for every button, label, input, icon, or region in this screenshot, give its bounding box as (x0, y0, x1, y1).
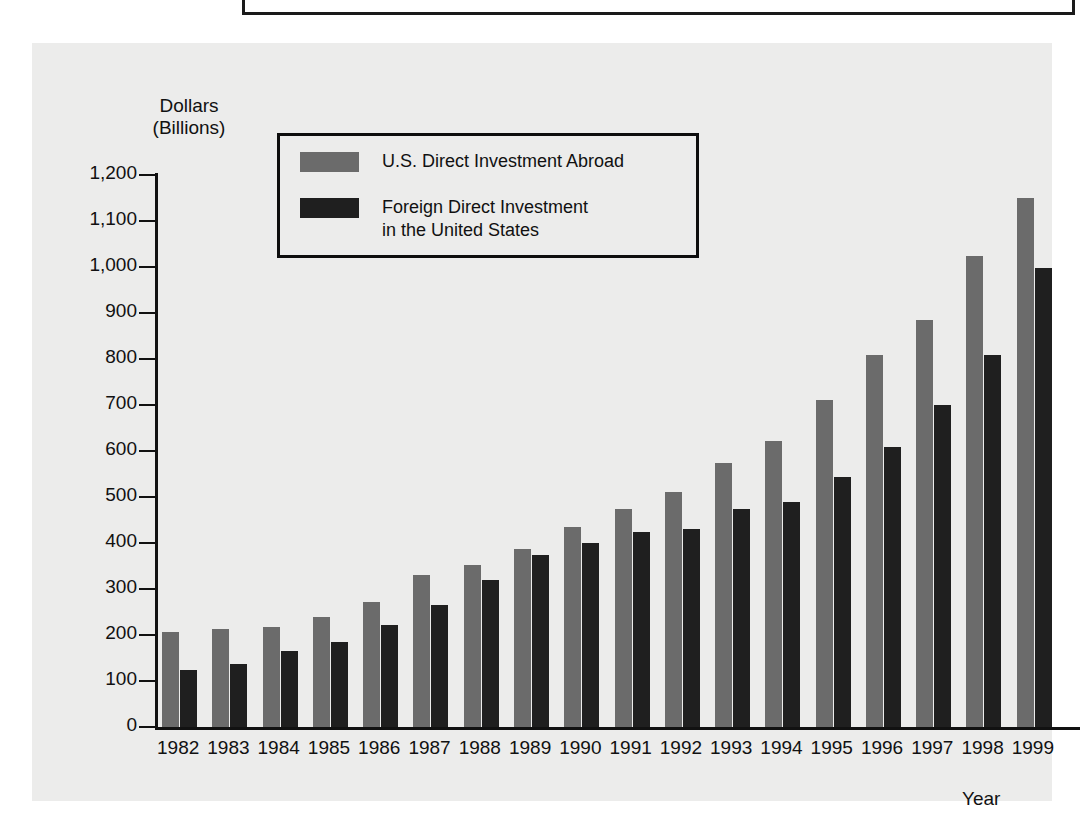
bar-1998-series0 (966, 256, 983, 728)
y-axis-tick-label: 100 (37, 668, 137, 690)
y-axis-tick-label: 900 (37, 300, 137, 322)
y-axis-tick-label: 1,100 (37, 208, 137, 230)
x-axis-label-1996: 1996 (861, 737, 903, 759)
y-axis-tick-label: 0 (37, 714, 137, 736)
bar-1991-series1 (633, 532, 650, 727)
bar-1989-series0 (514, 549, 531, 727)
bar-1983-series0 (212, 629, 229, 727)
bar-1984-series0 (263, 627, 280, 727)
x-axis-label-1989: 1989 (509, 737, 551, 759)
x-axis-label-1994: 1994 (760, 737, 802, 759)
y-axis-tick-label: 1,000 (37, 254, 137, 276)
bar-1997-series0 (916, 320, 933, 727)
y-axis-tick (139, 174, 155, 176)
y-axis-tick-label: 600 (37, 438, 137, 460)
bar-1999-series1 (1035, 268, 1052, 727)
bar-1987-series1 (431, 605, 448, 727)
x-axis-label-1990: 1990 (559, 737, 601, 759)
plot-area: 1,2001,1001,0009008007006005004003002001… (155, 175, 1060, 727)
y-axis-tick (139, 404, 155, 406)
y-axis-title: Dollars (Billions) (124, 95, 254, 140)
bar-1984-series1 (281, 651, 298, 727)
x-axis-title: Year (962, 788, 1000, 810)
bar-1985-series1 (331, 642, 348, 727)
bar-1994-series0 (765, 441, 782, 727)
y-axis-tick (139, 588, 155, 590)
bar-1992-series0 (665, 492, 682, 727)
bar-1985-series0 (313, 617, 330, 727)
y-axis-title-line1: Dollars (124, 95, 254, 117)
y-axis-tick (139, 634, 155, 636)
bar-1998-series1 (984, 355, 1001, 727)
y-axis-tick (139, 450, 155, 452)
x-axis-label-1986: 1986 (358, 737, 400, 759)
bar-1994-series1 (783, 502, 800, 727)
bar-1983-series1 (230, 664, 247, 727)
x-axis-label-1998: 1998 (961, 737, 1003, 759)
y-axis-tick-label: 300 (37, 576, 137, 598)
y-axis-tick (139, 496, 155, 498)
y-axis-tick (139, 312, 155, 314)
y-axis-tick-label: 400 (37, 530, 137, 552)
bar-1997-series1 (934, 405, 951, 727)
bar-1987-series0 (413, 575, 430, 727)
y-axis-tick (139, 726, 155, 728)
legend-item-us-direct-investment-abroad: U.S. Direct Investment Abroad (300, 150, 624, 173)
bar-1996-series1 (884, 447, 901, 727)
bar-1982-series1 (180, 670, 197, 728)
x-axis-label-1993: 1993 (710, 737, 752, 759)
bar-1996-series0 (866, 355, 883, 727)
y-axis-tick-label: 1,200 (37, 162, 137, 184)
bar-1993-series1 (733, 509, 750, 727)
x-axis-label-1997: 1997 (911, 737, 953, 759)
bar-1986-series0 (363, 602, 380, 727)
x-axis-line (155, 727, 1080, 730)
y-axis-tick (139, 358, 155, 360)
legend-label-0: U.S. Direct Investment Abroad (382, 150, 624, 173)
bar-1990-series1 (582, 543, 599, 727)
bar-1988-series0 (464, 565, 481, 727)
legend-swatch-gray (300, 152, 359, 172)
y-axis-tick-label: 700 (37, 392, 137, 414)
chart-panel: Dollars (Billions) U.S. Direct Investmen… (32, 43, 1052, 801)
bar-1982-series0 (162, 632, 179, 727)
page-cutoff-box (242, 0, 1075, 15)
bar-1991-series0 (615, 509, 632, 727)
bar-1990-series0 (564, 527, 581, 727)
y-axis-tick-label: 200 (37, 622, 137, 644)
bar-1989-series1 (532, 555, 549, 727)
bar-1995-series0 (816, 400, 833, 727)
bar-1995-series1 (834, 477, 851, 727)
bar-1999-series0 (1017, 198, 1034, 727)
y-axis-title-line2: (Billions) (124, 117, 254, 139)
bar-1988-series1 (482, 580, 499, 727)
y-axis-tick-label: 800 (37, 346, 137, 368)
y-axis-tick (139, 542, 155, 544)
x-axis-label-1991: 1991 (610, 737, 652, 759)
x-axis-label-1987: 1987 (408, 737, 450, 759)
x-axis-label-1985: 1985 (308, 737, 350, 759)
x-axis-label-1999: 1999 (1012, 737, 1054, 759)
y-axis-tick (139, 680, 155, 682)
x-axis-label-1983: 1983 (207, 737, 249, 759)
x-axis-label-1988: 1988 (459, 737, 501, 759)
y-axis-tick (139, 266, 155, 268)
bar-1993-series0 (715, 463, 732, 727)
x-axis-label-1995: 1995 (811, 737, 853, 759)
x-axis-label-1984: 1984 (258, 737, 300, 759)
x-axis-label-1982: 1982 (157, 737, 199, 759)
bar-1986-series1 (381, 625, 398, 727)
x-axis-label-1992: 1992 (660, 737, 702, 759)
bar-1992-series1 (683, 529, 700, 727)
y-axis-tick-label: 500 (37, 484, 137, 506)
y-axis-tick (139, 220, 155, 222)
